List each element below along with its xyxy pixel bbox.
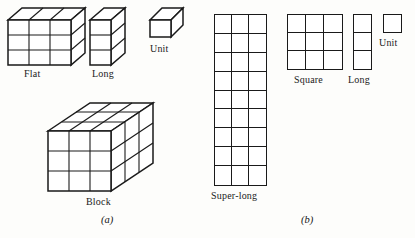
grid-cell [306, 51, 324, 69]
label-unit-2d: Unit [379, 37, 398, 48]
grid-cell [232, 53, 249, 72]
label-unit-3d: Unit [150, 43, 169, 54]
grid-cell [215, 109, 232, 128]
grid-cell [249, 34, 266, 53]
grid-cell [215, 34, 232, 53]
label-block-3d: Block [86, 196, 111, 207]
grid-cell [288, 33, 306, 51]
grid-cell [288, 15, 306, 33]
grid-cell [215, 166, 232, 185]
grid-cell [215, 91, 232, 110]
grid-cell [249, 72, 266, 91]
piece-long-2d [353, 14, 372, 70]
grid-cell [249, 15, 266, 34]
grid-cell [306, 15, 324, 33]
figure-root: Flat Long Unit [0, 0, 415, 238]
grid-cell [354, 15, 371, 33]
label-square: Square [294, 74, 323, 85]
piece-square-2d [287, 14, 343, 70]
grid-cell [232, 34, 249, 53]
piece-block-3d [48, 103, 160, 195]
grid-cell [232, 166, 249, 185]
grid-cell [215, 53, 232, 72]
grid-cell [232, 15, 249, 34]
label-flat: Flat [24, 68, 40, 79]
grid-cell [324, 33, 342, 51]
grid-cell [232, 91, 249, 110]
grid-cell [288, 51, 306, 69]
piece-unit-2d [383, 14, 402, 33]
piece-long-3d [90, 8, 132, 66]
panel-caption-b: (b) [301, 214, 313, 225]
grid-cell [324, 15, 342, 33]
grid-cell [215, 147, 232, 166]
grid-cell [354, 33, 371, 51]
grid-cell [249, 128, 266, 147]
grid-cell [249, 53, 266, 72]
grid-cell [354, 51, 371, 69]
grid-cell [232, 128, 249, 147]
piece-flat-3d [8, 8, 88, 66]
piece-super-long-2d [214, 14, 267, 186]
grid-cell [384, 15, 401, 32]
grid-cell [215, 15, 232, 34]
grid-cell [232, 72, 249, 91]
grid-cell [215, 128, 232, 147]
grid-cell [232, 109, 249, 128]
label-long-3d: Long [92, 68, 114, 79]
grid-cell [249, 147, 266, 166]
panel-caption-a: (a) [101, 214, 113, 225]
grid-cell [249, 109, 266, 128]
label-super-long: Super-long [211, 190, 257, 201]
grid-cell [232, 147, 249, 166]
grid-cell [324, 51, 342, 69]
grid-cell [306, 33, 324, 51]
grid-cell [215, 72, 232, 91]
grid-cell [249, 166, 266, 185]
grid-cell [249, 91, 266, 110]
piece-unit-3d [150, 8, 186, 38]
label-long-2d: Long [348, 74, 370, 85]
